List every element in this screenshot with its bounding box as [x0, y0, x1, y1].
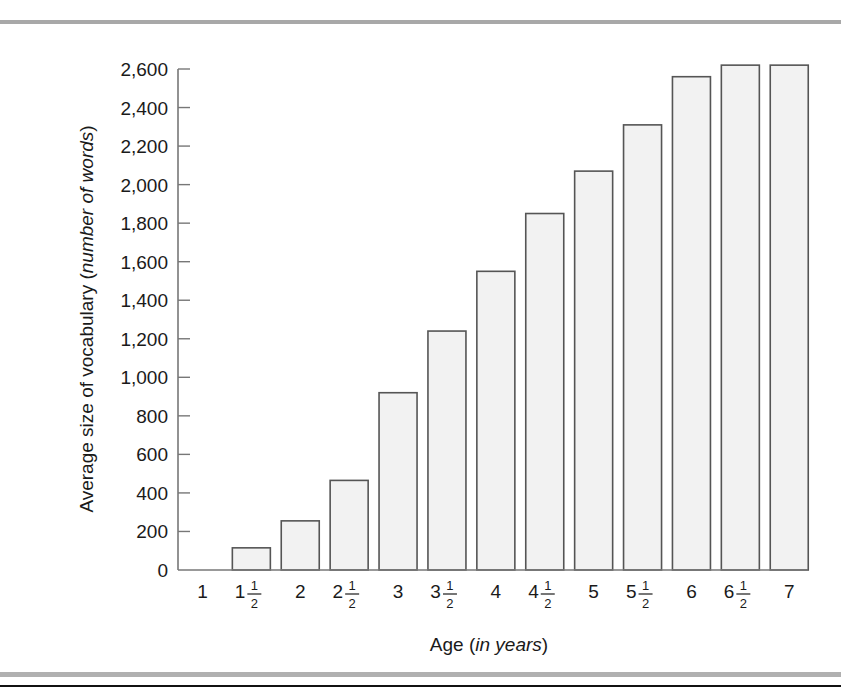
- svg-text:5: 5: [626, 581, 637, 602]
- x-axis-title: Age (in years): [430, 634, 548, 655]
- svg-text:2: 2: [740, 596, 747, 611]
- svg-text:2: 2: [333, 581, 344, 602]
- vocabulary-bar-chart: Average size of vocabulary (number of wo…: [0, 0, 841, 697]
- bar: [672, 77, 710, 570]
- x-tick-label: 5: [588, 581, 599, 602]
- svg-text:3: 3: [430, 581, 441, 602]
- bar: [770, 65, 808, 570]
- svg-text:1: 1: [251, 578, 258, 593]
- svg-text:2: 2: [349, 596, 356, 611]
- x-tick-label: 3: [393, 581, 404, 602]
- y-tick-label: 2,200: [120, 136, 168, 157]
- bottom-divider: [0, 672, 841, 677]
- svg-text:6: 6: [724, 581, 735, 602]
- bar: [232, 548, 270, 570]
- y-tick-label: 1,800: [120, 213, 168, 234]
- x-tick-label: 1: [197, 581, 208, 602]
- bar: [721, 65, 759, 570]
- bar: [379, 393, 417, 570]
- y-tick-label: 200: [136, 521, 168, 542]
- y-axis-label: Average size of vocabulary (number of wo…: [76, 125, 97, 512]
- svg-text:1: 1: [544, 578, 551, 593]
- svg-text:1: 1: [197, 581, 208, 602]
- svg-text:1: 1: [642, 578, 649, 593]
- y-tick-label: 2,600: [120, 59, 168, 80]
- bar: [526, 214, 564, 570]
- bar: [428, 331, 466, 570]
- svg-text:3: 3: [393, 581, 404, 602]
- y-tick-label: 1,400: [120, 290, 168, 311]
- bar: [575, 171, 613, 570]
- svg-text:7: 7: [784, 581, 795, 602]
- svg-text:1: 1: [740, 578, 747, 593]
- x-tick-label: 612: [724, 578, 751, 611]
- svg-text:2: 2: [446, 596, 453, 611]
- y-axis-title: Average size of vocabulary (number of wo…: [76, 125, 97, 512]
- svg-text:2: 2: [642, 596, 649, 611]
- y-tick-label: 1,000: [120, 367, 168, 388]
- svg-text:2: 2: [544, 596, 551, 611]
- svg-text:6: 6: [686, 581, 697, 602]
- svg-text:1: 1: [235, 581, 246, 602]
- svg-text:5: 5: [588, 581, 599, 602]
- svg-text:4: 4: [491, 581, 502, 602]
- y-tick-label: 1,600: [120, 252, 168, 273]
- y-tick-label: 2,000: [120, 175, 168, 196]
- x-tick-label: 6: [686, 581, 697, 602]
- x-axis: 1112221233124412551266127: [178, 570, 808, 611]
- bar: [624, 125, 662, 570]
- bar: [281, 521, 319, 570]
- x-tick-label: 312: [430, 578, 457, 611]
- svg-text:1: 1: [446, 578, 453, 593]
- x-tick-label: 2: [295, 581, 306, 602]
- x-tick-label: 7: [784, 581, 795, 602]
- x-axis-label: Age (in years): [430, 634, 548, 655]
- x-tick-label: 512: [626, 578, 653, 611]
- y-tick-label: 600: [136, 444, 168, 465]
- y-tick-label: 0: [157, 560, 168, 581]
- svg-text:4: 4: [528, 581, 539, 602]
- svg-text:1: 1: [349, 578, 356, 593]
- y-tick-label: 2,400: [120, 98, 168, 119]
- x-tick-label: 112: [235, 578, 262, 611]
- x-tick-label: 412: [528, 578, 555, 611]
- y-axis: 02004006008001,0001,2001,4001,6001,8002,…: [120, 59, 190, 581]
- svg-text:2: 2: [295, 581, 306, 602]
- y-tick-label: 1,200: [120, 329, 168, 350]
- y-tick-label: 400: [136, 483, 168, 504]
- x-tick-label: 4: [491, 581, 502, 602]
- bottom-rule: [0, 685, 841, 687]
- bars: [232, 65, 808, 570]
- svg-text:2: 2: [251, 596, 258, 611]
- y-tick-label: 800: [136, 406, 168, 427]
- x-tick-label: 212: [333, 578, 360, 611]
- bar: [330, 480, 368, 570]
- bar: [477, 271, 515, 570]
